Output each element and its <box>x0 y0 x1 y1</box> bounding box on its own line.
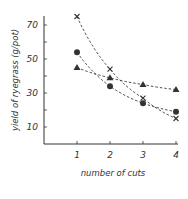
x-tick-label: 2 <box>107 150 113 160</box>
cross-marker-icon <box>141 96 146 101</box>
circle-marker-icon <box>173 109 179 115</box>
circle-marker-icon <box>140 100 146 106</box>
cross-marker-icon <box>174 116 179 121</box>
cross-marker-icon <box>108 67 113 72</box>
x-tick-label: 4 <box>173 150 179 160</box>
x-axis-label: number of cuts <box>81 168 146 178</box>
triangle-marker-icon <box>140 81 147 87</box>
y-tick-label: 50 <box>27 54 39 64</box>
series-cross <box>75 14 179 121</box>
axes: 103050701234 <box>27 16 180 160</box>
y-axis-label: yield of ryegrass (g/pot) <box>10 29 20 132</box>
y-tick-label: 10 <box>27 122 39 132</box>
cross-marker-icon <box>75 14 80 19</box>
y-tick-label: 70 <box>27 20 39 30</box>
circle-marker-icon <box>107 83 113 89</box>
x-tick-label: 1 <box>74 150 80 160</box>
triangle-marker-icon <box>74 64 81 70</box>
circle-marker-icon <box>74 49 80 55</box>
data-series <box>74 14 180 121</box>
line-chart: 103050701234 number of cuts yield of rye… <box>0 0 188 199</box>
series-line <box>77 17 176 119</box>
x-tick-label: 3 <box>140 150 146 160</box>
y-tick-label: 30 <box>27 88 39 98</box>
